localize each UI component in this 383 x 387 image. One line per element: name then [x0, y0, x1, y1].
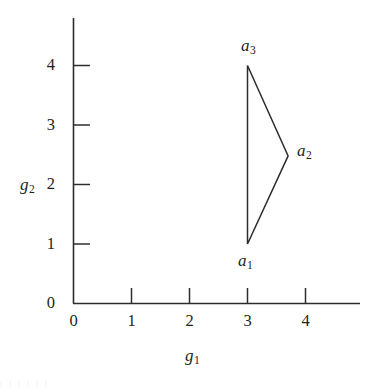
x-axis-ticks: [132, 288, 306, 304]
y-tick-label-2: 2: [33, 176, 55, 193]
point-label-a3-subscript: 3: [250, 44, 256, 57]
x-tick-label-0: 0: [63, 313, 85, 330]
point-label-a3-base: a: [241, 36, 250, 55]
y-tick-label-3: 3: [33, 117, 55, 134]
x-tick-label-3: 3: [237, 313, 259, 330]
x-tick-label-4: 4: [295, 313, 317, 330]
y-axis-title: g2: [20, 176, 35, 196]
point-label-a3: a3: [241, 37, 256, 57]
point-label-a2-subscript: 2: [306, 149, 312, 162]
y-tick-label-1: 1: [33, 236, 55, 253]
point-label-a2: a2: [297, 142, 312, 162]
x-axis-title-subscript: 1: [194, 354, 200, 367]
y-tick-label-4: 4: [33, 57, 55, 74]
page-scan-artifact: | | | | | |: [0, 378, 383, 387]
data-triangle: [248, 66, 289, 245]
y-axis-title-base: g: [20, 175, 29, 194]
x-axis-title: g1: [185, 347, 200, 367]
x-axis-title-base: g: [185, 346, 194, 365]
x-tick-label-2: 2: [179, 313, 201, 330]
point-label-a1: a1: [238, 252, 253, 272]
y-axis-ticks: [74, 66, 91, 245]
point-label-a1-base: a: [238, 251, 247, 270]
y-tick-label-0: 0: [33, 295, 55, 312]
y-axis-title-subscript: 2: [29, 183, 35, 196]
point-label-a2-base: a: [297, 141, 306, 160]
x-tick-label-1: 1: [121, 313, 143, 330]
point-label-a1-subscript: 1: [247, 259, 253, 272]
figure-container: 4 3 2 1 0 0 1 2 3 4 g2 g1 a1 a2 a3 | | |…: [0, 0, 383, 387]
